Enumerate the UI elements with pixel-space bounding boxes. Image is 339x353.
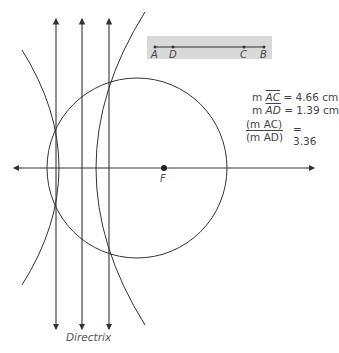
ratio-numerator: (m AC) [246,118,283,131]
measurement-ac: m AC = 4.66 cm [252,91,338,103]
ratio-value: = 3.36 [293,123,326,147]
measure-value-ad: = 1.39 cm [284,104,339,116]
segment-ad: AD [266,104,281,116]
ratio-fraction: (m AC) (m AD) [246,118,283,143]
focus-label: F [160,173,166,184]
measure-value-ac: = 4.66 cm [283,91,338,103]
point-label-d: D [169,49,177,60]
measurement-ad: m AD = 1.39 cm [252,104,339,116]
directrix-label: Directrix [66,331,111,343]
segment-ac: AC [266,91,281,103]
measure-prefix: m [252,91,266,103]
directrix-lines[interactable] [56,19,109,329]
point-label-b: B [260,49,267,60]
point-label-a: A [151,49,158,60]
focus-point[interactable] [161,165,167,171]
point-label-c: C [240,49,247,60]
measure-prefix: m [252,104,266,116]
ratio-denominator: (m AD) [246,131,283,143]
